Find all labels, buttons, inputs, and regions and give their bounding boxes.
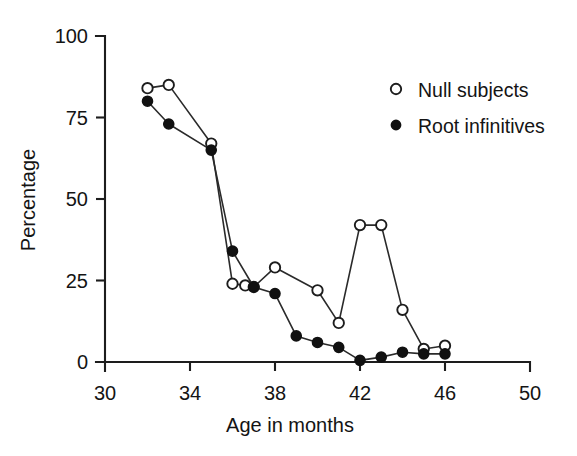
data-point (397, 305, 407, 315)
legend-label: Null subjects (418, 79, 529, 101)
chart-container: 0255075100 303438424650 Null subjectsRoo… (0, 0, 577, 456)
data-point (334, 318, 344, 328)
data-point (376, 352, 386, 362)
chart-legend: Null subjectsRoot infinitives (391, 79, 545, 137)
y-tick-label: 50 (66, 188, 88, 210)
legend-label: Root infinitives (418, 115, 545, 137)
data-point (270, 289, 280, 299)
x-axis-ticks: 303438424650 (94, 362, 541, 404)
data-point (249, 282, 259, 292)
data-point (143, 96, 153, 106)
data-point (228, 246, 238, 256)
chart-series (142, 80, 450, 366)
data-point (398, 347, 408, 357)
legend-open-circle-icon (391, 84, 401, 94)
data-point (419, 349, 429, 359)
legend-filled-circle-icon (391, 120, 400, 129)
data-point (206, 145, 216, 155)
y-axis-ticks: 0255075100 (55, 25, 105, 373)
data-point (291, 331, 301, 341)
data-point (376, 220, 386, 230)
data-point (355, 355, 365, 365)
y-tick-label: 100 (55, 25, 88, 47)
x-tick-label: 50 (519, 382, 541, 404)
data-point (227, 279, 237, 289)
x-tick-label: 38 (264, 382, 286, 404)
data-point (164, 119, 174, 129)
legend-item: Root infinitives (391, 115, 545, 137)
x-tick-label: 34 (179, 382, 201, 404)
data-point (270, 262, 280, 272)
data-point (142, 83, 152, 93)
x-tick-label: 42 (349, 382, 371, 404)
data-point (312, 285, 322, 295)
data-point (355, 220, 365, 230)
series-null-subjects (142, 80, 450, 354)
legend-item: Null subjects (391, 79, 529, 101)
y-tick-label: 25 (66, 270, 88, 292)
line-chart: 0255075100 303438424650 Null subjectsRoo… (0, 0, 577, 456)
data-point (334, 342, 344, 352)
series-root-infinitives (143, 96, 451, 365)
data-point (313, 337, 323, 347)
y-axis-title: Percentage (17, 149, 39, 251)
x-tick-label: 30 (94, 382, 116, 404)
y-tick-label: 75 (66, 107, 88, 129)
x-tick-label: 46 (434, 382, 456, 404)
data-point (164, 80, 174, 90)
data-point (440, 349, 450, 359)
x-axis-title: Age in months (226, 414, 354, 436)
y-tick-label: 0 (77, 351, 88, 373)
